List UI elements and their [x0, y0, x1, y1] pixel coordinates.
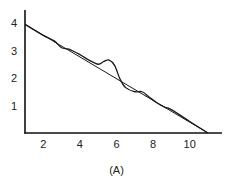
y-tick-label: 2	[11, 72, 17, 84]
y-tick-label: 3	[11, 45, 17, 57]
line-chart: 246810 1234	[0, 0, 230, 188]
plot-series	[25, 24, 208, 133]
x-tick-label: 8	[150, 138, 156, 150]
y-tick-labels: 1234	[11, 17, 17, 112]
x-tick-label: 6	[113, 138, 119, 150]
y-tick-label: 4	[11, 17, 17, 29]
fit-line	[25, 24, 208, 133]
axes	[24, 10, 222, 134]
x-tick-labels: 246810	[40, 138, 196, 150]
x-tick-label: 4	[77, 138, 83, 150]
figure-caption: (A)	[0, 164, 230, 176]
y-tick-label: 1	[11, 100, 17, 112]
x-tick-label: 2	[40, 138, 46, 150]
x-tick-label: 10	[184, 138, 196, 150]
